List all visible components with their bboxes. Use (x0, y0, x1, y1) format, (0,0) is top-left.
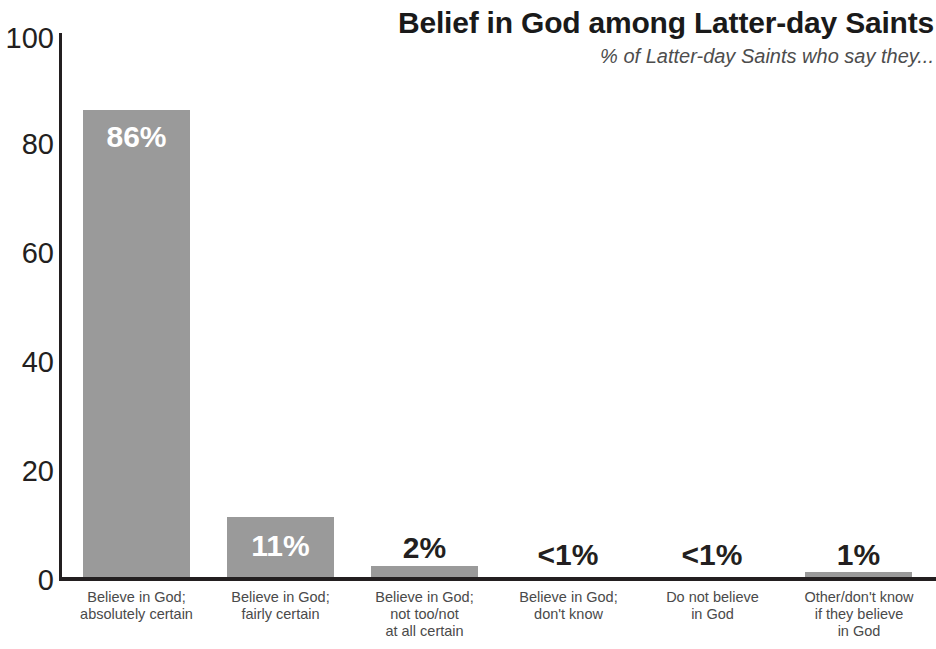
category-label-6: Other/don't know if they believe in God (785, 589, 933, 640)
category-label-5: Do not believe in God (641, 589, 784, 623)
y-tick-label-40: 40 (0, 348, 54, 377)
bar-believe-absolutely-certain: 86% (83, 110, 190, 577)
bar-value-label-4: <1% (508, 540, 628, 570)
y-tick-label-80: 80 (0, 130, 54, 159)
category-label-1-line1: Believe in God; (65, 589, 208, 606)
bar-value-label-5: <1% (652, 540, 772, 570)
bar-value-label-6: 1% (805, 540, 912, 570)
category-label-1-line2: absolutely certain (65, 606, 208, 623)
category-label-5-line1: Do not believe (641, 589, 784, 606)
category-label-3-line3: at all certain (353, 623, 496, 640)
bar-value-label-3: 2% (371, 533, 478, 563)
plot-area: 100 80 60 40 20 0 86% 11% 2% <1% <1% 1% … (0, 0, 936, 649)
category-label-2: Believe in God; fairly certain (209, 589, 352, 623)
bar-value-label-1: 86% (83, 122, 190, 152)
category-label-4-line2: don't know (497, 606, 640, 623)
category-label-3-line2: not too/not (353, 606, 496, 623)
category-label-3: Believe in God; not too/not at all certa… (353, 589, 496, 640)
category-label-6-line3: in God (785, 623, 933, 640)
bar-believe-not-too-certain (371, 566, 478, 577)
y-tick-label-0: 0 (0, 566, 54, 595)
category-label-5-line2: in God (641, 606, 784, 623)
category-label-2-line1: Believe in God; (209, 589, 352, 606)
x-axis-line (59, 577, 936, 581)
bar-value-label-2: 11% (227, 531, 334, 561)
category-label-4-line1: Believe in God; (497, 589, 640, 606)
y-tick-label-100: 100 (0, 24, 54, 53)
category-label-2-line2: fairly certain (209, 606, 352, 623)
y-tick-label-20: 20 (0, 457, 54, 486)
y-tick-label-60: 60 (0, 239, 54, 268)
bar-believe-fairly-certain: 11% (227, 517, 334, 577)
category-label-1: Believe in God; absolutely certain (65, 589, 208, 623)
bar-believe-dont-know (515, 575, 622, 577)
category-label-6-line2: if they believe (785, 606, 933, 623)
chart-figure: Belief in God among Latter-day Saints % … (0, 0, 936, 649)
y-axis-line (59, 33, 62, 580)
category-label-4: Believe in God; don't know (497, 589, 640, 623)
category-label-6-line1: Other/don't know (785, 589, 933, 606)
bar-other-dont-know (805, 572, 912, 577)
bar-do-not-believe (659, 575, 766, 577)
category-label-3-line1: Believe in God; (353, 589, 496, 606)
